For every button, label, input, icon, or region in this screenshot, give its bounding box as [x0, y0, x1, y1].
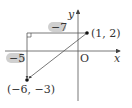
point-neg6-neg3	[25, 78, 29, 82]
horizontal-leg-label: −7	[51, 21, 67, 34]
origin-label: O	[80, 52, 89, 65]
vertical-leg-label: −5	[9, 52, 25, 65]
x-axis-label: x	[114, 52, 121, 65]
point-1-2	[85, 31, 89, 35]
coordinate-diagram: x y O (1, 2) (−6, −3) −7 −5	[0, 0, 132, 108]
point-label-neg6-neg3: (−6, −3)	[7, 83, 55, 96]
point-label-1-2: (1, 2)	[91, 27, 121, 40]
y-axis-label: y	[67, 8, 75, 21]
right-angle-mark	[27, 33, 31, 37]
